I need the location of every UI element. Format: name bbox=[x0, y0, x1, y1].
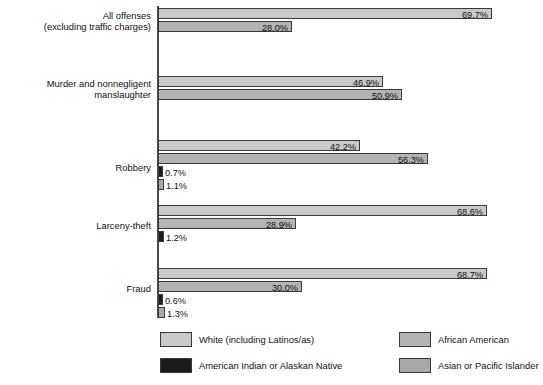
category-label-murder: Murder and nonnegligent manslaughter bbox=[0, 78, 151, 101]
legend-item-american-indian: American Indian or Alaskan Native bbox=[160, 358, 342, 373]
bar-value-label: 1.3% bbox=[167, 308, 188, 320]
bar-value-label: 1.2% bbox=[166, 232, 187, 244]
legend-swatch-icon bbox=[160, 358, 192, 373]
legend-swatch-icon bbox=[160, 332, 192, 347]
bar-value-label: 46.9% bbox=[353, 77, 379, 89]
bar-chart: All offenses (excluding traffic charges)… bbox=[0, 0, 543, 385]
bar-value-label: 68.7% bbox=[457, 269, 483, 281]
bar-white-robbery: 42.2% bbox=[158, 140, 360, 151]
bar-african-american-all-offenses: 28.0% bbox=[158, 21, 292, 32]
bar-american-indian-fraud: 0.6% bbox=[158, 294, 163, 305]
legend-label: American Indian or Alaskan Native bbox=[199, 360, 342, 372]
bar-value-label: 42.2% bbox=[330, 141, 356, 153]
bar-value-label: 68.6% bbox=[457, 206, 483, 218]
bar-african-american-larceny-theft: 28.9% bbox=[158, 218, 296, 229]
legend-label: Asian or Pacific Islander bbox=[438, 360, 539, 372]
bar-white-all-offenses: 69.7% bbox=[158, 8, 492, 19]
bar-value-label: 28.0% bbox=[262, 22, 288, 34]
bar-white-larceny-theft: 68.6% bbox=[158, 205, 487, 216]
bar-african-american-robbery: 56.3% bbox=[158, 153, 428, 164]
bar-value-label: 56.3% bbox=[398, 154, 424, 166]
legend-label: African American bbox=[438, 334, 509, 346]
category-label-all-offenses: All offenses (excluding traffic charges) bbox=[0, 10, 151, 33]
bar-value-label: 0.7% bbox=[165, 167, 186, 179]
chart-legend: White (including Latinos/as) African Ame… bbox=[0, 328, 543, 385]
category-label-larceny-theft: Larceny-theft bbox=[0, 220, 151, 231]
bar-value-label: 30.0% bbox=[272, 282, 298, 294]
bar-african-american-fraud: 30.0% bbox=[158, 281, 302, 292]
bar-value-label: 0.6% bbox=[165, 295, 186, 307]
bar-white-murder: 46.9% bbox=[158, 76, 383, 87]
plot-area: All offenses (excluding traffic charges)… bbox=[0, 0, 543, 322]
bar-white-fraud: 68.7% bbox=[158, 268, 487, 279]
bar-asian-fraud: 1.3% bbox=[158, 307, 165, 318]
legend-label: White (including Latinos/as) bbox=[199, 334, 314, 346]
bar-african-american-murder: 50.9% bbox=[158, 89, 402, 100]
legend-item-white: White (including Latinos/as) bbox=[160, 332, 314, 347]
legend-item-african-american: African American bbox=[399, 332, 509, 347]
bar-asian-robbery: 1.1% bbox=[158, 179, 164, 190]
legend-swatch-icon bbox=[399, 332, 431, 347]
legend-swatch-icon bbox=[399, 358, 431, 373]
bar-value-label: 1.1% bbox=[166, 180, 187, 192]
category-label-fraud: Fraud bbox=[0, 283, 151, 294]
legend-item-asian: Asian or Pacific Islander bbox=[399, 358, 539, 373]
bar-value-label: 28.9% bbox=[266, 219, 292, 231]
bar-american-indian-larceny-theft: 1.2% bbox=[158, 231, 164, 242]
bar-value-label: 69.7% bbox=[462, 9, 488, 21]
bar-value-label: 50.9% bbox=[372, 90, 398, 102]
category-label-robbery: Robbery bbox=[0, 162, 151, 173]
bar-american-indian-robbery: 0.7% bbox=[158, 166, 163, 177]
